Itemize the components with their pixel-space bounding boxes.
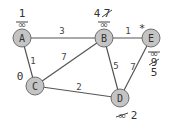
node-b-label: B	[101, 33, 107, 44]
node-d-distance: 2	[131, 109, 138, 122]
node-c-distance: 0	[17, 70, 24, 83]
node-e-label: E	[148, 33, 154, 44]
node-c: C	[26, 77, 44, 95]
edge-c-b	[35, 38, 104, 86]
dijkstra-graph-diagram: 3 1 1 7 5 7 2 A B E C D 1 ∞ 4 7 ∞ * ∞ 9 …	[0, 0, 169, 128]
node-c-label: C	[32, 81, 38, 92]
node-a: A	[13, 29, 31, 47]
edge-weight-e-d: 7	[130, 62, 135, 72]
node-d: D	[111, 89, 129, 107]
edge-weight-c-d: 2	[76, 82, 81, 92]
node-b: B	[95, 29, 113, 47]
node-a-crossed-infinity: ∞	[18, 19, 26, 30]
edge-weight-b-e: 1	[125, 26, 130, 36]
node-e-distance: 5	[151, 66, 158, 79]
edge-weight-a-b: 3	[59, 26, 64, 36]
node-d-label: D	[117, 93, 123, 104]
edge-weight-a-c: 1	[30, 56, 35, 66]
node-e-marker: *	[139, 22, 146, 35]
edge-weight-c-b: 7	[61, 52, 66, 62]
node-b-crossed-infinity: ∞	[100, 19, 108, 30]
node-a-label: A	[19, 33, 25, 44]
edge-weight-b-d: 5	[113, 61, 118, 71]
